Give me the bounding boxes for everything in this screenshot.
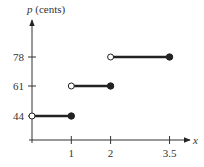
x-tick-label: 3.5 [163, 147, 177, 159]
x-tick-label: 2 [108, 147, 114, 159]
open-endpoint [29, 113, 35, 119]
axes [29, 20, 190, 143]
axis-labels: p (cents)x [26, 3, 198, 146]
x-tick-label: 1 [69, 147, 75, 159]
step-function-chart: 123.5446178 p (cents)x [0, 0, 204, 167]
y-tick-label: 44 [13, 110, 25, 122]
open-endpoint [108, 54, 114, 60]
closed-endpoint [166, 54, 172, 60]
x-axis-label: x [192, 134, 198, 146]
step-segments [29, 54, 173, 119]
closed-endpoint [68, 113, 74, 119]
y-tick-label: 61 [13, 80, 24, 92]
y-axis-label: p (cents) [26, 3, 66, 16]
closed-endpoint [107, 83, 113, 89]
ticks: 123.5446178 [13, 51, 177, 159]
open-endpoint [68, 83, 74, 89]
y-tick-label: 78 [13, 51, 25, 63]
